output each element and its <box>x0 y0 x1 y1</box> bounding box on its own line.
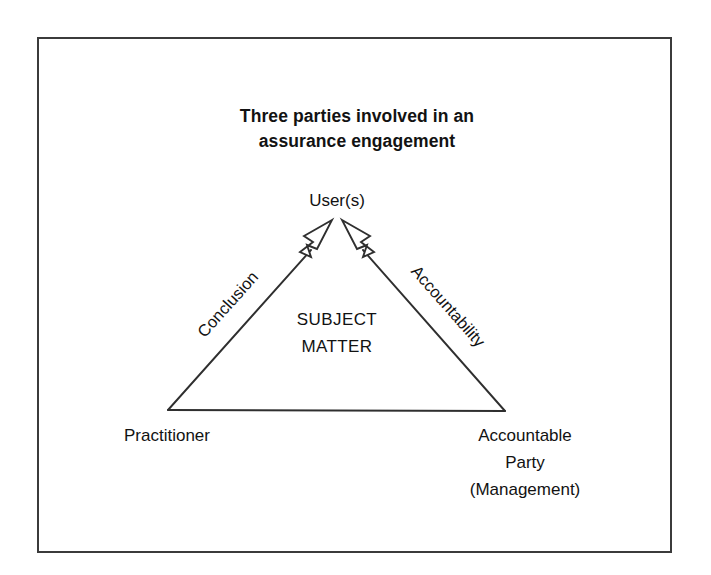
triangle-base-edge <box>168 410 505 411</box>
edge-label-conclusion-group: Conclusion <box>194 268 262 341</box>
arrowhead-accountability-icon <box>342 220 374 257</box>
diagram-title-line-2: assurance engagement <box>259 131 456 151</box>
node-label-users: User(s) <box>309 191 365 210</box>
arrowhead-conclusion-icon <box>300 220 332 257</box>
diagram-page: Three parties involved in an assurance e… <box>0 0 711 575</box>
center-label-line-1: SUBJECT <box>297 310 377 329</box>
node-label-accountable-party-line-3: (Management) <box>470 480 581 499</box>
node-label-practitioner: Practitioner <box>124 426 210 445</box>
triangle-right-edge-shaft <box>363 250 505 411</box>
assurance-triangle-figure: Three parties involved in an assurance e… <box>0 0 711 575</box>
node-label-accountable-party-line-2: Party <box>505 453 545 472</box>
edge-label-conclusion: Conclusion <box>194 268 262 341</box>
edge-label-accountability: Accountability <box>408 262 489 351</box>
center-label-line-2: MATTER <box>301 337 372 356</box>
edge-label-accountability-group: Accountability <box>408 262 489 351</box>
node-label-accountable-party-line-1: Accountable <box>478 426 572 445</box>
triangle-left-edge-shaft <box>168 250 311 410</box>
diagram-title-line-1: Three parties involved in an <box>240 106 474 126</box>
